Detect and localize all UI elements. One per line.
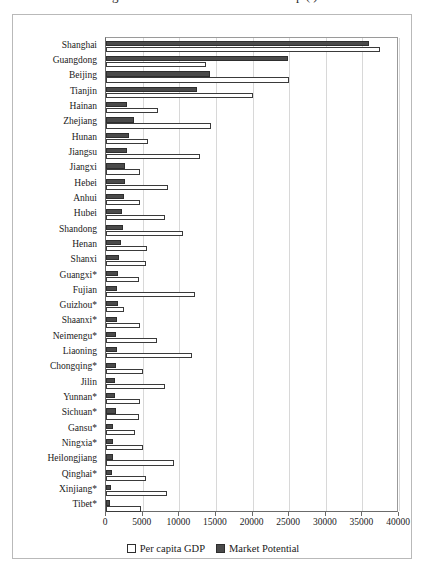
bar-per-capita-gdp <box>106 369 143 374</box>
bar-market-potential <box>106 194 124 199</box>
bar-market-potential <box>106 71 210 76</box>
bar-market-potential <box>106 255 119 260</box>
bar-group <box>106 298 397 313</box>
y-axis-label: Chongqing* <box>50 361 97 371</box>
y-axis-label: Jiangxi <box>70 162 97 172</box>
bar-group <box>106 69 397 84</box>
x-axis-tick-mark <box>105 512 106 516</box>
bar-per-capita-gdp <box>106 139 148 144</box>
y-axis-label: Tibet* <box>73 499 97 509</box>
legend: Per capita GDP Market Potential <box>13 543 413 554</box>
bar-market-potential <box>106 148 127 153</box>
bar-group <box>106 375 397 390</box>
bar-per-capita-gdp <box>106 123 211 128</box>
y-axis-label: Beijing <box>69 70 97 80</box>
bar-per-capita-gdp <box>106 200 140 205</box>
y-axis-label: Heilongjiang <box>47 453 97 463</box>
bar-market-potential <box>106 485 111 490</box>
legend-swatch-market-potential-icon <box>216 544 225 553</box>
bar-per-capita-gdp <box>106 277 139 282</box>
bar-market-potential <box>106 424 113 429</box>
bar-market-potential <box>106 301 118 306</box>
y-axis-label: Jiangsu <box>69 147 98 157</box>
bar-group <box>106 237 397 252</box>
x-axis-tick-mark <box>178 512 179 516</box>
y-axis-label: Guangxi* <box>60 270 97 280</box>
bar-per-capita-gdp <box>106 62 206 67</box>
bar-market-potential <box>106 133 129 138</box>
bar-market-potential <box>106 271 118 276</box>
bar-group <box>106 99 397 114</box>
bar-market-potential <box>106 332 116 337</box>
bar-per-capita-gdp <box>106 292 195 297</box>
bar-group <box>106 329 397 344</box>
y-axis-label: Hubei <box>74 208 97 218</box>
y-axis-label: Shaanxi* <box>62 315 97 325</box>
bar-per-capita-gdp <box>106 307 124 312</box>
bar-group <box>106 360 397 375</box>
bar-per-capita-gdp <box>106 169 140 174</box>
bar-market-potential <box>106 393 115 398</box>
y-axis-label: Hebei <box>74 178 97 188</box>
bar-group <box>106 498 397 513</box>
bar-market-potential <box>106 500 110 505</box>
bar-per-capita-gdp <box>106 261 146 266</box>
bar-group <box>106 222 397 237</box>
bar-market-potential <box>106 87 197 92</box>
bar-group <box>106 130 397 145</box>
x-axis-tick-label: 25000 <box>276 517 300 527</box>
bar-group <box>106 467 397 482</box>
y-axis-label: Xinjiang* <box>59 484 97 494</box>
x-axis-tick-mark <box>398 512 399 516</box>
x-axis-tick-label: 35000 <box>350 517 374 527</box>
bar-per-capita-gdp <box>106 338 157 343</box>
x-axis-tick-label: 10000 <box>166 517 190 527</box>
bar-group <box>106 406 397 421</box>
y-axis-label: Neimengu* <box>53 331 97 341</box>
cropped-title-left: g <box>112 0 119 4</box>
y-axis-label: Hunan <box>72 132 97 142</box>
bar-per-capita-gdp <box>106 246 147 251</box>
bar-per-capita-gdp <box>106 185 168 190</box>
x-axis-tick-mark <box>215 512 216 516</box>
x-axis-tick-mark <box>361 512 362 516</box>
bar-market-potential <box>106 470 112 475</box>
bar-group <box>106 53 397 68</box>
bar-group <box>106 207 397 222</box>
y-axis-label: Shanghai <box>62 40 97 50</box>
bar-per-capita-gdp <box>106 108 158 113</box>
bar-rows <box>106 38 397 511</box>
y-axis-label: Gansu* <box>68 423 97 433</box>
bar-group <box>106 283 397 298</box>
bar-group <box>106 191 397 206</box>
y-axis-label: Shanxi <box>71 254 97 264</box>
bar-per-capita-gdp <box>106 491 167 496</box>
figure-frame: ShanghaiGuangdongBeijingTianjinHainanZhe… <box>12 14 412 559</box>
legend-label-market-potential: Market Potential <box>229 543 299 554</box>
bar-group <box>106 452 397 467</box>
x-axis-tick-label: 20000 <box>240 517 264 527</box>
bar-per-capita-gdp <box>106 384 165 389</box>
bar-per-capita-gdp <box>106 506 141 511</box>
bar-market-potential <box>106 378 115 383</box>
bar-market-potential <box>106 56 288 61</box>
bar-group <box>106 436 397 451</box>
y-axis-label: Fujian <box>73 285 97 295</box>
bar-per-capita-gdp <box>106 399 140 404</box>
y-axis-label: Henan <box>72 239 97 249</box>
legend-swatch-gdp-icon <box>127 544 136 553</box>
y-axis-label: Tianjin <box>70 86 97 96</box>
cropped-title: g p ( ) <box>0 0 426 13</box>
bar-market-potential <box>106 317 117 322</box>
x-axis-tick-label: 30000 <box>313 517 337 527</box>
x-axis-tick-label: 40000 <box>386 517 410 527</box>
bar-per-capita-gdp <box>106 414 139 419</box>
bar-per-capita-gdp <box>106 47 380 52</box>
bar-market-potential <box>106 454 113 459</box>
y-axis-label: Hainan <box>70 101 97 111</box>
bar-market-potential <box>106 117 134 122</box>
y-axis-label: Ningxia* <box>62 438 97 448</box>
x-axis: 0500010000150002000025000300003500040000 <box>105 512 398 534</box>
y-axis-label: Guizhou* <box>60 300 97 310</box>
legend-item-gdp: Per capita GDP <box>127 543 205 554</box>
